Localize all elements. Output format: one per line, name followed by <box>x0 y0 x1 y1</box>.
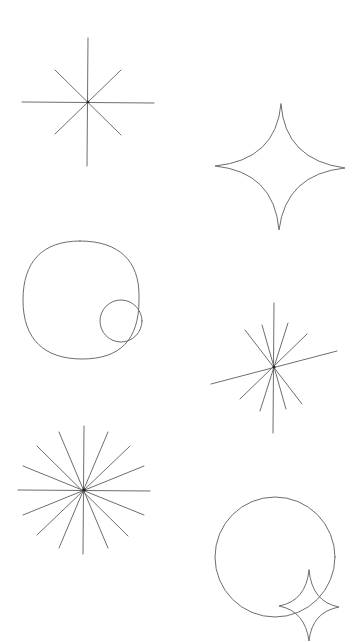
four-point-star-icon <box>215 104 345 230</box>
starburst-16-icon <box>18 426 150 554</box>
circle-with-star-icon <box>215 497 339 641</box>
drawing-canvas <box>0 0 361 642</box>
squircle-with-circle-icon <box>23 241 142 359</box>
starburst-irregular-icon <box>211 303 337 433</box>
starburst-8-icon <box>22 38 154 166</box>
